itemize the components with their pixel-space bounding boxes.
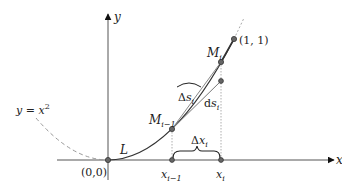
ds-label: dsi <box>204 97 220 112</box>
x-prev-label: xi−1 <box>161 168 182 183</box>
delta-s-label: Δsi <box>178 91 195 106</box>
origin-point <box>105 157 110 162</box>
x-i-label: xi <box>216 168 225 183</box>
end-point-label: (1, 1) <box>239 34 269 47</box>
m-i-label: Mi <box>206 46 222 62</box>
x-prev-point <box>170 158 175 163</box>
end-point <box>231 36 236 41</box>
x-axis-label: x <box>336 153 342 167</box>
arc-label-L: L <box>119 143 128 157</box>
tangent-end-point <box>219 79 224 84</box>
x-i-point <box>219 158 224 163</box>
parabola-dashed-branch <box>36 118 108 160</box>
delta-x-label: Δxi <box>191 134 208 149</box>
m-prev-label: Mi−1 <box>148 113 176 129</box>
y-axis-label: y <box>113 10 121 24</box>
delta-x-brace <box>173 146 220 158</box>
arc-hat-icon <box>177 83 201 87</box>
origin-label: (0,0) <box>81 166 107 179</box>
arc-segment-end <box>221 39 234 62</box>
arc-length-diagram: y x (0,0) y = x2 L Mi−1 Mi (1, 1) xi−1 x… <box>0 0 342 193</box>
curve-equation-label: y = x2 <box>15 102 50 117</box>
